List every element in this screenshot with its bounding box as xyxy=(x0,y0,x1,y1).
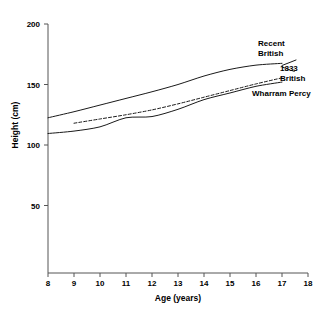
x-axis-title: Age (years) xyxy=(155,293,201,303)
y-tick-label-200: 200 xyxy=(27,20,41,29)
x-tick-label-15: 15 xyxy=(226,279,235,288)
series-label-recent-british-line2: British xyxy=(258,49,283,58)
chart-container: 200 150 100 50 8 9 10 11 12 13 14 15 16 … xyxy=(0,0,328,311)
series-label-recent-british-line1: Recent xyxy=(258,39,285,48)
y-tick-label-50: 50 xyxy=(31,202,40,211)
x-tick-label-16: 16 xyxy=(252,279,261,288)
series-label-1833-british-line2: British xyxy=(280,74,305,83)
height-by-age-line-chart: 200 150 100 50 8 9 10 11 12 13 14 15 16 … xyxy=(0,0,328,311)
x-tick-label-11: 11 xyxy=(122,279,131,288)
x-tick-label-10: 10 xyxy=(96,279,105,288)
series-label-1833-british-line1: 1833 xyxy=(280,64,298,73)
x-tick-label-8: 8 xyxy=(46,279,51,288)
series-label-wharram-percy: Wharram Percy xyxy=(252,89,311,98)
y-tick-label-100: 100 xyxy=(27,141,41,150)
x-tick-label-18: 18 xyxy=(304,279,313,288)
y-axis-title: Height (cm) xyxy=(10,101,20,148)
x-tick-label-12: 12 xyxy=(148,279,157,288)
x-tick-label-14: 14 xyxy=(200,279,209,288)
x-tick-label-9: 9 xyxy=(72,279,77,288)
x-tick-label-13: 13 xyxy=(174,279,183,288)
y-tick-label-150: 150 xyxy=(27,81,41,90)
x-tick-label-17: 17 xyxy=(278,279,287,288)
